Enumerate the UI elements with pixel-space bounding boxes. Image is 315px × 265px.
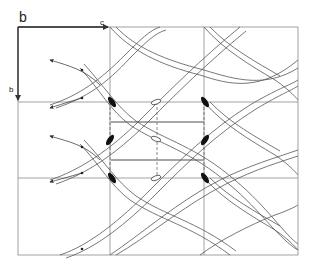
- descending-bands: [80, 27, 298, 255]
- symmetry-diagram: [0, 0, 315, 265]
- dots: [81, 69, 84, 251]
- ascending-bands: [50, 27, 298, 258]
- left-arrow-lines: [50, 60, 100, 182]
